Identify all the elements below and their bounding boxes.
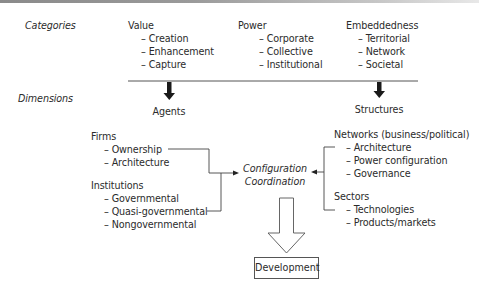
agents-down-arrow-icon [164,82,176,100]
quasi-governmental-connector [207,173,221,211]
development-box: Development [254,257,319,279]
connector-lines [0,0,479,289]
structures-to-center-arrow-icon [311,170,317,175]
structures-down-arrow-icon [374,82,386,98]
agents-to-center-arrow-icon [233,171,239,176]
structures-bracket [324,147,335,210]
ownership-connector [168,149,233,173]
hollow-down-arrow-icon [268,198,305,253]
